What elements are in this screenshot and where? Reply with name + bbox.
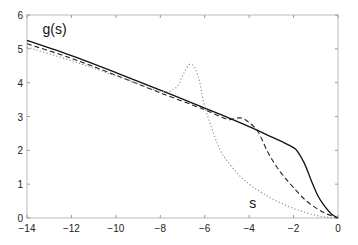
x-axis: −14−12−10−8−6−4−20 bbox=[19, 15, 342, 234]
x-tick-label: −8 bbox=[155, 223, 167, 234]
x-tick-label: −2 bbox=[288, 223, 300, 234]
x-tick-label: −10 bbox=[107, 223, 124, 234]
y-tick-label: 2 bbox=[17, 145, 23, 156]
x-tick-label: −14 bbox=[19, 223, 36, 234]
annotation-label: s bbox=[249, 195, 256, 211]
x-tick-label: 0 bbox=[335, 223, 341, 234]
y-tick-label: 3 bbox=[17, 112, 23, 123]
y-tick-label: 5 bbox=[17, 44, 23, 55]
series-dotted-line bbox=[27, 47, 338, 218]
line-chart: 0123456 −14−12−10−8−6−4−20 g(s)s bbox=[0, 0, 358, 245]
x-tick-label: −6 bbox=[199, 223, 211, 234]
x-tick-label: −12 bbox=[63, 223, 80, 234]
plot-frame bbox=[27, 15, 338, 218]
y-axis: 0123456 bbox=[17, 10, 338, 224]
y-tick-label: 6 bbox=[17, 10, 23, 21]
series-dashed-line bbox=[27, 44, 338, 218]
data-series bbox=[27, 40, 338, 218]
x-tick-label: −4 bbox=[243, 223, 255, 234]
series-solid-line bbox=[27, 40, 338, 218]
y-tick-label: 4 bbox=[17, 78, 23, 89]
y-tick-label: 1 bbox=[17, 179, 23, 190]
annotation-label: g(s) bbox=[43, 21, 67, 37]
